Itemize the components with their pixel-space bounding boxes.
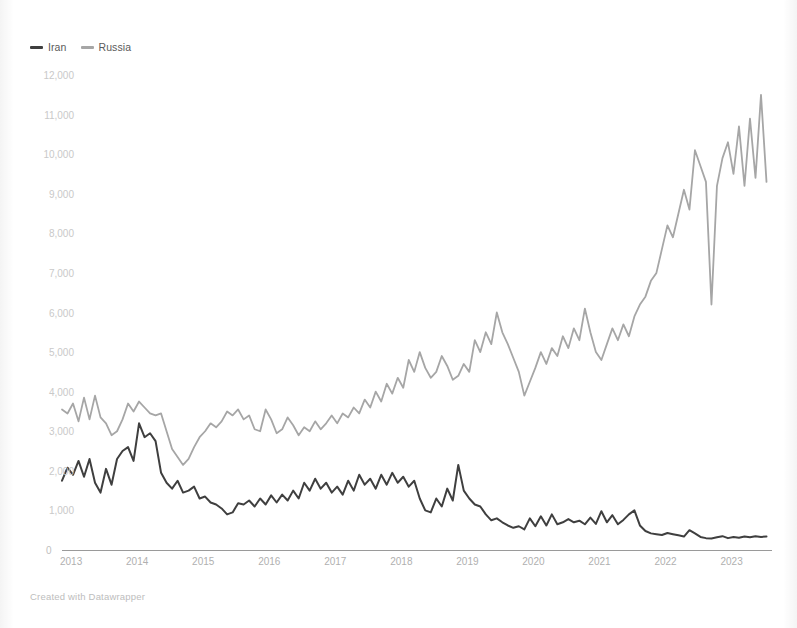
series-lines	[0, 0, 797, 628]
series-line-russia[interactable]	[62, 95, 767, 465]
y-tick-label: 8,000	[49, 228, 74, 239]
y-tick-label: 1,000	[49, 505, 74, 516]
y-tick-label: 5,000	[49, 347, 74, 358]
x-tick-label: 2020	[522, 556, 544, 567]
x-tick-label: 2022	[654, 556, 676, 567]
x-tick-label: 2023	[720, 556, 742, 567]
plot-area: 01,0002,0003,0004,0005,0006,0007,0008,00…	[0, 0, 797, 628]
x-tick-label: 2017	[324, 556, 346, 567]
x-tick-label: 2016	[258, 556, 280, 567]
chart-credit: Created with Datawrapper	[30, 591, 145, 602]
y-tick-label: 9,000	[49, 188, 74, 199]
x-axis-baseline	[62, 550, 772, 551]
x-tick-label: 2018	[390, 556, 412, 567]
y-tick-label: 7,000	[49, 267, 74, 278]
y-tick-label: 11,000	[44, 109, 74, 120]
datawrapper-chart: Iran Russia 01,0002,0003,0004,0005,0006,…	[0, 0, 797, 628]
y-tick-label: 0	[46, 545, 52, 556]
y-tick-label: 2,000	[49, 465, 74, 476]
y-tick-label: 6,000	[49, 307, 74, 318]
y-tick-label: 4,000	[49, 386, 74, 397]
x-tick-label: 2019	[456, 556, 478, 567]
x-tick-label: 2021	[588, 556, 610, 567]
series-line-iran[interactable]	[62, 423, 767, 538]
y-tick-label: 10,000	[43, 149, 74, 160]
y-tick-label: 12,000	[43, 70, 74, 81]
x-tick-label: 2015	[192, 556, 214, 567]
y-tick-label: 3,000	[49, 426, 74, 437]
x-tick-label: 2013	[60, 556, 82, 567]
x-tick-label: 2014	[126, 556, 148, 567]
